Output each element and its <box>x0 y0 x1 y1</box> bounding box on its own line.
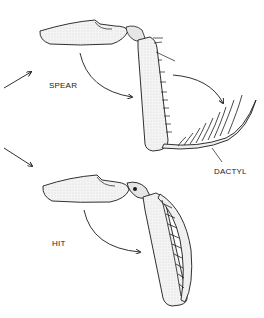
hit-propodus <box>143 193 187 306</box>
label-spear: SPEAR <box>49 81 77 90</box>
spear-dactyl <box>162 100 256 149</box>
label-dactyl: DACTYL <box>214 167 247 176</box>
figure-canvas: SPEAR DACTYL HIT <box>0 0 264 318</box>
spear-propodus <box>138 37 168 151</box>
spear-merus <box>40 20 128 45</box>
spear-motion-arrow <box>80 53 132 97</box>
spear-appendage <box>40 20 256 162</box>
dactyl-motion-arrow <box>173 75 223 103</box>
pointer-arrow-spear <box>4 72 31 88</box>
pointer-arrow-hit <box>4 148 32 166</box>
illustration <box>0 0 264 318</box>
dactyl-leader-line <box>212 148 222 162</box>
label-hit: HIT <box>52 239 66 248</box>
hit-merus <box>43 175 129 202</box>
hit-motion-arrow <box>84 210 140 252</box>
